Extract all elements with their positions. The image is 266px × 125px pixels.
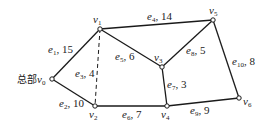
node-v1 (98, 27, 102, 31)
edge-label-e5: e5, 6 (115, 50, 135, 64)
node-v0 (50, 77, 54, 81)
edge-label-e10: e10, 8 (232, 55, 255, 69)
node-label-v3: v3 (154, 51, 163, 65)
edge-label-e9: e9, 9 (190, 104, 210, 118)
node-label-v5: v5 (209, 4, 218, 18)
node-label-v6: v6 (243, 95, 252, 109)
node-label-v0: 总部v0 (17, 73, 46, 87)
graph-diagram: 总部v0 v1 v2 v3 v4 v5 v6 e1, 15 e2, 10 e3,… (0, 0, 266, 125)
node-label-v2: v2 (89, 108, 98, 122)
edge-e3 (95, 29, 100, 106)
node-label-v4: v4 (161, 108, 170, 122)
node-label-v1: v1 (93, 13, 102, 27)
node-v3 (160, 65, 164, 69)
edge-label-e1: e1, 15 (48, 43, 73, 57)
node-v5 (211, 18, 215, 22)
edge-label-e3: e3, 4 (75, 67, 95, 81)
edge-label-e2: e2, 10 (59, 97, 84, 111)
graph-canvas: 总部v0 v1 v2 v3 v4 v5 v6 e1, 15 e2, 10 e3,… (0, 0, 266, 125)
node-v6 (237, 96, 241, 100)
edge-label-e6: e6, 7 (122, 108, 142, 122)
edge-label-e4: e4, 14 (147, 10, 172, 24)
edge-label-e8: e8, 5 (186, 44, 206, 58)
edge-label-e7: e7, 3 (167, 78, 187, 92)
